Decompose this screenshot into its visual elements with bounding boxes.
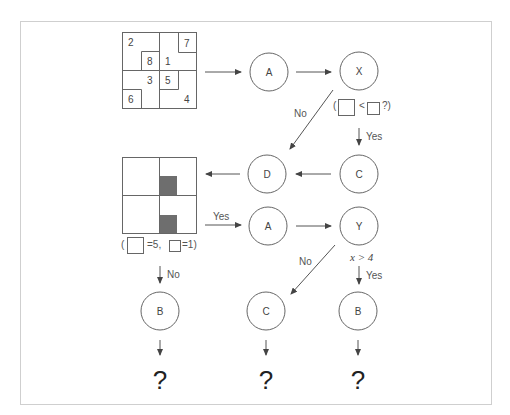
svg-text:(: ( <box>333 100 337 111</box>
svg-text:B: B <box>157 306 164 317</box>
node-bot-b2: B <box>339 292 377 330</box>
edge-label-yes: Yes <box>366 131 382 142</box>
edge-label-no: No <box>294 108 307 119</box>
arrow-x-to-d <box>290 90 333 149</box>
svg-text:X: X <box>356 66 363 77</box>
svg-text:Y: Y <box>356 221 363 232</box>
output-question-mark: ? <box>259 365 273 395</box>
shaded-cell <box>160 176 177 195</box>
flowchart-diagram: 2 7 8 1 3 5 6 4 A X No ( < ?) Yes D C <box>0 0 510 415</box>
node-mid-d: D <box>248 155 286 193</box>
svg-text:<: < <box>359 100 365 111</box>
edge-label-no: No <box>299 256 312 267</box>
svg-text:A: A <box>266 67 273 78</box>
arrow-y-to-c <box>291 245 335 294</box>
node-mid-y: Y <box>340 207 378 245</box>
svg-text:C: C <box>262 306 269 317</box>
grid-number: 2 <box>128 37 134 48</box>
svg-text:C: C <box>355 169 362 180</box>
shaded-grid <box>123 158 197 234</box>
output-question-mark: ? <box>351 365 365 395</box>
y-condition: x > 4 <box>349 251 374 263</box>
svg-text:A: A <box>265 221 272 232</box>
svg-text:?): ?) <box>382 100 391 111</box>
node-top-x: X <box>340 52 378 90</box>
svg-text:(: ( <box>121 239 125 250</box>
grid-number: 3 <box>147 75 153 86</box>
grid-number: 5 <box>165 75 171 86</box>
shaded-cell <box>160 215 177 233</box>
grid-number: 7 <box>184 38 190 49</box>
svg-text:B: B <box>355 306 362 317</box>
x-condition: ( < ?) <box>333 100 391 116</box>
svg-text:D: D <box>263 169 270 180</box>
node-mid-c: C <box>340 155 378 193</box>
node-top-a: A <box>250 53 288 91</box>
grid-number: 6 <box>128 94 134 105</box>
grid-number: 4 <box>184 94 190 105</box>
svg-text:=1): =1) <box>182 239 197 250</box>
edge-label-yes: Yes <box>366 270 382 281</box>
output-question-mark: ? <box>153 365 167 395</box>
node-bot-c: C <box>247 292 285 330</box>
grid-number: 8 <box>147 56 153 67</box>
node-mid-a: A <box>249 207 287 245</box>
svg-text:=5,: =5, <box>147 239 161 250</box>
edge-label-yes: Yes <box>213 211 229 222</box>
grid-condition: ( =5, =1) <box>121 238 197 254</box>
node-bot-b1: B <box>141 292 179 330</box>
grid-number: 1 <box>165 56 171 67</box>
edge-label-no: No <box>167 269 180 280</box>
